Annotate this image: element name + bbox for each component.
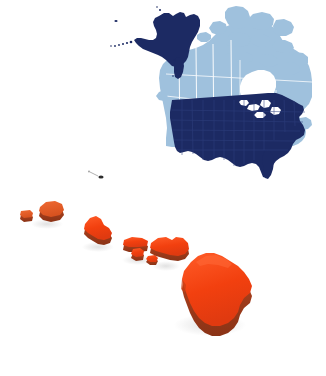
map-canvas: North America and Hawaii Map Map illustr… xyxy=(0,0,326,376)
island-oahu xyxy=(84,216,112,245)
island-niihau xyxy=(20,210,33,222)
nihoa-islet-marker xyxy=(88,171,104,179)
island-kauai xyxy=(39,201,64,222)
hawaii-layer xyxy=(0,0,326,376)
island-lanai xyxy=(131,248,144,261)
